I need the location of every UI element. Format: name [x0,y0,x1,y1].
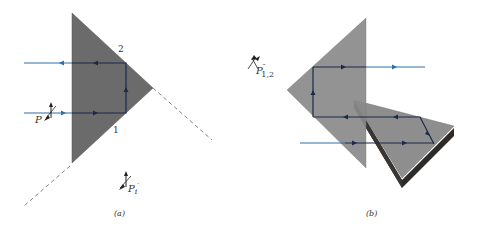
panel-a: 2 1 P Pi′ (a) [24,13,212,218]
caption-a: (a) [114,209,125,218]
caption-b: (b) [366,209,377,218]
polarization-symbol-input [44,102,56,121]
wedge-prism-top-face [354,100,454,178]
face-label-1: 1 [113,125,119,135]
incoming-beam-arrow-icon [61,111,66,116]
dashed-extension-upper [153,88,212,140]
beam-arrow-icon [392,65,397,70]
polarization-label-b: P″1,2 [255,63,274,79]
output-polarization-label: Pi′ [127,182,139,196]
right-angle-prism-a [72,13,153,163]
retroreflector-diagram: 2 1 P Pi′ (a) [0,0,478,243]
face-label-2: 2 [118,44,124,54]
dashed-extension-lower [24,166,70,206]
outgoing-beam-arrow-icon [59,61,64,66]
right-angle-prism-b [287,18,366,168]
panel-b: P″1,2 (b) [248,18,454,218]
input-polarization-label: P [34,114,42,125]
